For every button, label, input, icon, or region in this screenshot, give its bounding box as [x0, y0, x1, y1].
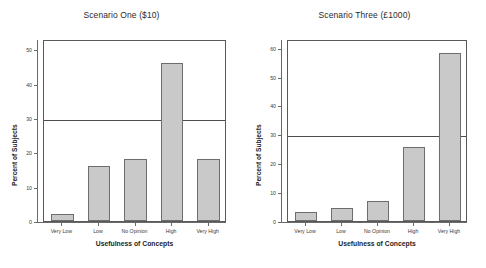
y-axis-tick	[278, 106, 282, 107]
bar	[51, 214, 74, 221]
x-axis-tick-label: Low	[336, 228, 346, 234]
x-axis-tick-label: No Opinion	[364, 228, 390, 234]
bar	[197, 159, 220, 221]
x-axis-tick	[305, 222, 306, 226]
bar	[403, 147, 425, 221]
plot-area	[288, 41, 466, 221]
x-axis-tick	[413, 222, 414, 226]
y-axis-tick-label: 20	[259, 161, 276, 167]
y-axis-tick-label: 0	[259, 219, 276, 225]
x-axis-tick	[341, 222, 342, 226]
x-axis-line	[281, 222, 467, 223]
bar	[124, 159, 147, 221]
y-axis-tick	[278, 49, 282, 50]
x-axis-line	[37, 222, 226, 223]
y-axis-tick	[278, 135, 282, 136]
plot-area	[44, 41, 225, 221]
x-axis-label: Usefulness of Concepts	[287, 240, 467, 247]
x-axis-tick-label: No Opinion	[122, 228, 148, 234]
x-axis-tick	[449, 222, 450, 226]
x-axis-tick	[135, 222, 136, 226]
chart-panel-scenario-three: Scenario Three (£1000) Percent of Subjec…	[243, 0, 486, 268]
x-axis-tick	[208, 222, 209, 226]
y-axis-tick-label: 50	[259, 75, 276, 81]
chart-title: Scenario Three (£1000)	[243, 10, 486, 20]
y-axis-tick-label: 0	[15, 219, 32, 225]
x-axis-tick-label: High	[408, 228, 419, 234]
y-axis-tick-label: 40	[259, 103, 276, 109]
bar	[331, 208, 353, 221]
y-axis-tick-label: 10	[15, 185, 32, 191]
y-axis-tick	[34, 85, 38, 86]
y-axis-tick-label: 30	[259, 132, 276, 138]
x-axis-label: Usefulness of Concepts	[43, 240, 226, 247]
bar	[88, 166, 111, 221]
y-axis-line	[281, 40, 282, 222]
y-axis-tick	[34, 188, 38, 189]
y-axis-tick-label: 40	[15, 82, 32, 88]
y-axis-tick-label: 20	[15, 150, 32, 156]
x-axis-tick	[98, 222, 99, 226]
y-axis-tick-label: 60	[259, 46, 276, 52]
x-axis-tick-label: Low	[93, 228, 103, 234]
x-axis-tick	[171, 222, 172, 226]
reference-line	[44, 120, 225, 121]
y-axis-tick-label: 50	[15, 47, 32, 53]
plot-frame	[43, 40, 226, 222]
y-axis-tick-label: 30	[15, 116, 32, 122]
x-axis-tick	[61, 222, 62, 226]
y-axis-tick	[34, 119, 38, 120]
x-axis-tick-label: Very High	[196, 228, 219, 234]
y-axis-tick	[278, 78, 282, 79]
x-axis-tick-label: Very High	[438, 228, 461, 234]
y-axis-line	[37, 40, 38, 222]
figure-container: Scenario One ($10) Percent of Subjects U…	[0, 0, 486, 268]
x-axis-tick-label: High	[166, 228, 177, 234]
bar	[439, 53, 461, 221]
bar	[161, 63, 184, 221]
chart-panel-scenario-one: Scenario One ($10) Percent of Subjects U…	[0, 0, 243, 268]
y-axis-tick-label: 10	[259, 190, 276, 196]
y-axis-tick	[34, 153, 38, 154]
plot-frame	[287, 40, 467, 222]
bar	[295, 212, 317, 221]
x-axis-tick-label: Very Low	[294, 228, 315, 234]
y-axis-tick	[278, 193, 282, 194]
y-axis-tick	[278, 164, 282, 165]
bar	[367, 201, 389, 221]
y-axis-tick	[34, 50, 38, 51]
x-axis-tick-label: Very Low	[51, 228, 72, 234]
x-axis-tick	[377, 222, 378, 226]
chart-title: Scenario One ($10)	[0, 10, 243, 20]
